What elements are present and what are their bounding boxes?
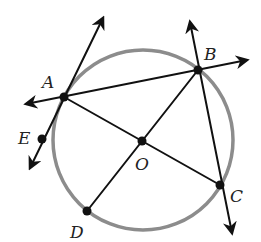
- point-b: [194, 66, 203, 75]
- label-b: B: [203, 44, 217, 64]
- label-c: C: [230, 186, 243, 206]
- geometry-diagram: ABOCDE: [0, 0, 261, 242]
- label-e: E: [17, 128, 31, 148]
- label-d: D: [69, 222, 84, 242]
- point-o: [138, 137, 147, 146]
- label-o: O: [135, 154, 149, 174]
- line-EA: [30, 18, 103, 168]
- label-a: A: [40, 72, 54, 92]
- point-d: [83, 207, 92, 216]
- point-c: [216, 181, 225, 190]
- point-e: [38, 135, 47, 144]
- point-a: [60, 93, 69, 102]
